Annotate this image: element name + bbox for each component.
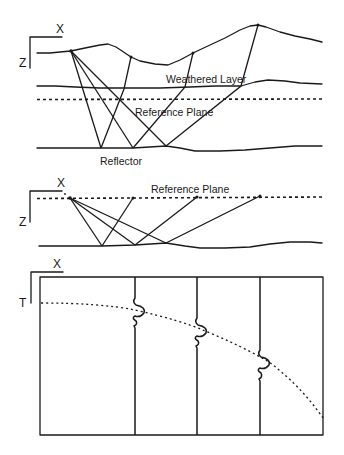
- reflection-moveout-curve: [41, 303, 323, 418]
- reference-plane-line: [37, 197, 322, 199]
- receiver-point: [257, 24, 260, 27]
- seismic-trace: [258, 277, 269, 435]
- receiver-point: [192, 52, 195, 55]
- diagram-canvas: X Z Weathered Layer R: [0, 0, 344, 455]
- geophone-markers: [69, 24, 259, 59]
- panel-depth-weathered: X Z Weathered Layer R: [19, 22, 322, 167]
- axis-indicator-xt: X T: [19, 257, 63, 310]
- source-tick: [64, 193, 66, 195]
- axis-x-label: X: [56, 22, 64, 36]
- axis-z-label: Z: [19, 56, 26, 70]
- receiver-point: [259, 195, 262, 198]
- seismic-trace: [133, 277, 144, 435]
- receiver-point: [130, 56, 133, 59]
- panel-time-section: X T: [19, 257, 323, 435]
- section-frame: [40, 277, 323, 435]
- ray-paths: [70, 196, 260, 246]
- reflector-line: [39, 242, 322, 248]
- axis-corner: [30, 191, 62, 222]
- receiver-point: [132, 197, 135, 200]
- reference-plane-label: Reference Plane: [135, 106, 213, 118]
- reference-plane-line: [37, 99, 322, 100]
- axis-indicator-xz: X Z: [19, 176, 65, 229]
- reflector-label: Reflector: [100, 155, 143, 167]
- axis-x-label: X: [57, 176, 65, 190]
- seismic-trace: [195, 277, 206, 435]
- axis-indicator-xz: X Z: [19, 22, 64, 70]
- weathered-layer-label: Weathered Layer: [166, 73, 247, 85]
- axis-x-label: X: [53, 257, 61, 271]
- receiver-point: [196, 196, 199, 199]
- reflector-line: [37, 146, 322, 151]
- axis-z-label: Z: [19, 215, 26, 229]
- reference-plane-label: Reference Plane: [151, 183, 229, 195]
- axis-t-label: T: [19, 296, 27, 310]
- panel-depth-datum: X Z Reference Plane: [19, 176, 322, 248]
- source-point: [68, 196, 72, 200]
- source-point: [69, 49, 73, 53]
